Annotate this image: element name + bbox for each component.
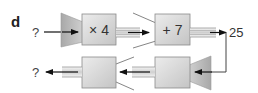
forward-input-value: ? xyxy=(32,26,39,39)
inverse-machine-2 xyxy=(82,57,134,90)
machine-2-funnel-top xyxy=(133,13,156,23)
inverse-machine-2-funnel-bottom xyxy=(116,82,134,90)
inverse-output-value: ? xyxy=(32,66,39,79)
part-label: d xyxy=(11,14,20,29)
machine-2-funnel-bottom xyxy=(133,41,156,48)
function-machine-diagram: d ? × 4 + 7 25 ? xyxy=(0,0,258,93)
inverse-machine-1-funnel xyxy=(189,56,211,90)
inverse-machine-1-body xyxy=(155,57,190,88)
forward-output-value: 25 xyxy=(229,26,243,39)
machine-2-operation: + 7 xyxy=(155,23,190,37)
inverse-machine-2-funnel-top xyxy=(116,57,134,64)
machine-1-funnel xyxy=(61,13,83,47)
inverse-machine-1 xyxy=(155,56,211,90)
machine-1-operation: × 4 xyxy=(82,23,116,37)
inverse-machine-2-body xyxy=(82,57,116,88)
